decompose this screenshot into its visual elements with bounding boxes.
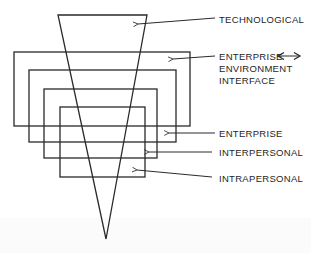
technological-arrow [138, 18, 215, 24]
label-enterprise-environment-line1: ENTERPRISE [219, 51, 283, 62]
diagram-canvas: TECHNOLOGICAL ENTERPRISE ENVIRONMENT INT… [0, 0, 311, 253]
enterprise-box [29, 70, 176, 142]
label-interpersonal: INTERPERSONAL [219, 147, 303, 158]
technological-funnel [58, 15, 147, 239]
intrapersonal-arrow [137, 170, 212, 177]
enterprise-environment-arrow [173, 56, 215, 59]
interpersonal-box [44, 89, 157, 158]
background-band [0, 218, 311, 253]
label-enterprise-environment-line2: ENVIRONMENT [219, 63, 293, 74]
label-intrapersonal: INTRAPERSONAL [219, 173, 303, 184]
label-technological: TECHNOLOGICAL [219, 14, 304, 25]
diagram-svg: TECHNOLOGICAL ENTERPRISE ENVIRONMENT INT… [0, 0, 311, 253]
label-enterprise-environment-line3: INTERFACE [219, 75, 275, 86]
label-enterprise: ENTERPRISE [219, 128, 283, 139]
